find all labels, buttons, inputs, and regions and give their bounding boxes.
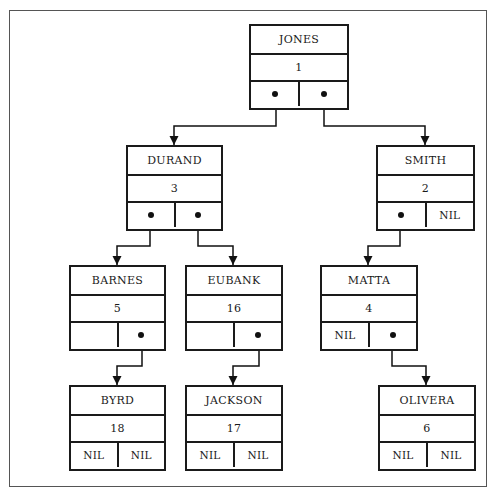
node-value: 3 (128, 174, 221, 201)
left-pointer-cell (128, 203, 174, 227)
right-pointer-cell: NIL (233, 443, 281, 467)
pointer-dot-icon (255, 332, 261, 338)
node-jones: JONES 1 (249, 24, 349, 110)
pointer-dot-icon (398, 212, 404, 218)
node-jackson: JACKSON 17 NIL NIL (185, 385, 283, 471)
node-pointers (71, 321, 164, 347)
node-value: 2 (378, 174, 473, 201)
right-pointer-cell: NIL (117, 443, 165, 467)
pointer-dot-icon (390, 332, 396, 338)
left-pointer-cell (187, 323, 233, 347)
right-pointer-cell (368, 323, 416, 347)
node-value: 6 (380, 414, 474, 441)
pointer-dot-icon (272, 91, 278, 97)
node-barnes: BARNES 5 (69, 265, 166, 351)
node-olivera: OLIVERA 6 NIL NIL (378, 385, 476, 471)
node-pointers: NIL (322, 321, 416, 347)
node-pointers: NIL NIL (380, 441, 474, 467)
node-pointers (251, 80, 347, 106)
node-name: MATTA (322, 267, 416, 294)
pointer-dot-icon (321, 91, 327, 97)
node-value: 1 (251, 53, 347, 80)
node-name: BYRD (71, 387, 164, 414)
node-smith: SMITH 2 NIL (376, 145, 475, 231)
node-value: 5 (71, 294, 164, 321)
right-pointer-cell: NIL (426, 443, 474, 467)
node-pointers (187, 321, 281, 347)
left-pointer-cell (71, 323, 117, 347)
node-matta: MATTA 4 NIL (320, 265, 418, 351)
node-name: JONES (251, 26, 347, 53)
right-pointer-cell: NIL (425, 203, 474, 227)
left-pointer-cell (378, 203, 425, 227)
pointer-dot-icon (138, 332, 144, 338)
node-name: OLIVERA (380, 387, 474, 414)
right-pointer-cell (298, 82, 347, 106)
node-name: JACKSON (187, 387, 281, 414)
node-value: 17 (187, 414, 281, 441)
left-pointer-cell: NIL (380, 443, 426, 467)
node-value: 16 (187, 294, 281, 321)
node-name: SMITH (378, 147, 473, 174)
left-pointer-cell (251, 82, 298, 106)
left-pointer-cell: NIL (71, 443, 117, 467)
node-byrd: BYRD 18 NIL NIL (69, 385, 166, 471)
pointer-dot-icon (148, 212, 154, 218)
right-pointer-cell (233, 323, 281, 347)
node-pointers: NIL NIL (71, 441, 164, 467)
node-value: 18 (71, 414, 164, 441)
node-name: EUBANK (187, 267, 281, 294)
right-pointer-cell (117, 323, 165, 347)
node-pointers: NIL (378, 201, 473, 227)
node-eubank: EUBANK 16 (185, 265, 283, 351)
node-pointers (128, 201, 221, 227)
node-durand: DURAND 3 (126, 145, 223, 231)
node-name: DURAND (128, 147, 221, 174)
left-pointer-cell: NIL (322, 323, 368, 347)
left-pointer-cell: NIL (187, 443, 233, 467)
pointer-dot-icon (195, 212, 201, 218)
tree-diagram: JONES 1 DURAND 3 SMITH 2 NIL BARNES 5 (0, 0, 495, 495)
node-pointers: NIL NIL (187, 441, 281, 467)
right-pointer-cell (174, 203, 222, 227)
node-value: 4 (322, 294, 416, 321)
node-name: BARNES (71, 267, 164, 294)
